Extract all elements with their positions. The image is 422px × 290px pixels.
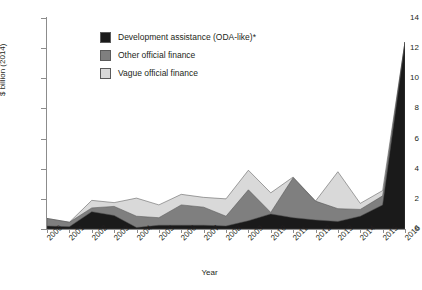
legend-item: Development assistance (ODA-like)* xyxy=(100,28,256,46)
legend-label-vague-official-finance: Vague official finance xyxy=(118,68,198,78)
legend-item: Vague official finance xyxy=(100,64,256,82)
legend-swatch-development-assistance xyxy=(100,32,111,43)
legend-label-development-assistance: Development assistance (ODA-like)* xyxy=(118,32,256,42)
legend-swatch-vague-official-finance xyxy=(100,68,111,79)
legend-item: Other official finance xyxy=(100,46,256,64)
legend-label-other-official-finance: Other official finance xyxy=(118,50,195,60)
legend-swatch-other-official-finance xyxy=(100,50,111,61)
chart-legend: Development assistance (ODA-like)* Other… xyxy=(100,28,256,82)
y-axis-title: $ billion (2014) xyxy=(0,44,7,96)
x-axis-title: Year xyxy=(0,268,419,277)
